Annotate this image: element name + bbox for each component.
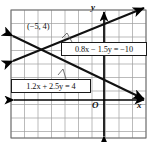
equation-label-line-2: 1.2x + 2.5y = 4 (11, 79, 91, 93)
y-axis-label: y (91, 2, 95, 12)
graph-canvas (0, 0, 157, 142)
intersection-point-label: (−5, 4) (27, 21, 50, 31)
coordinate-graph-figure: (−5, 4) 0.8x − 1.5y = −10 1.2x + 2.5y = … (0, 0, 157, 142)
equation-label-line-1: 0.8x − 1.5y = −10 (61, 42, 147, 56)
x-axis-label: x (137, 100, 142, 110)
origin-label: O (92, 100, 99, 110)
